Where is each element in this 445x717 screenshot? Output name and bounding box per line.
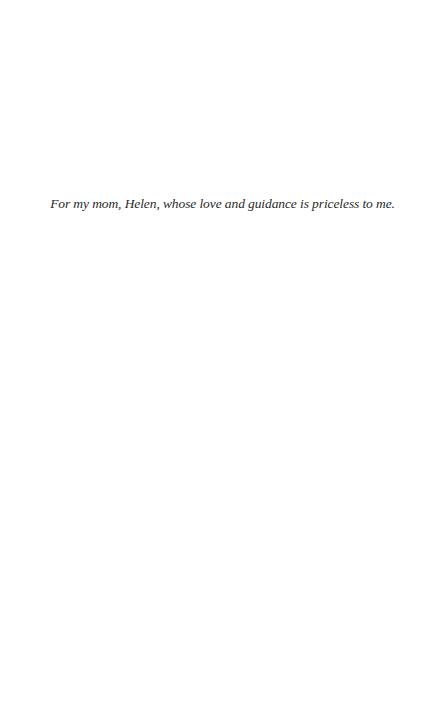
document-page: For my mom, Helen, whose love and guidan… [0,0,445,717]
dedication-text: For my mom, Helen, whose love and guidan… [0,195,445,213]
